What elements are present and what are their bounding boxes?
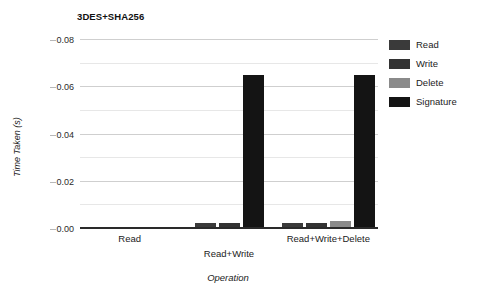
legend-item: Read <box>389 36 475 53</box>
gridline-minor <box>80 204 378 205</box>
x-axis-line <box>80 227 378 229</box>
legend-swatch-icon <box>389 40 410 50</box>
chart-legend: ReadWriteDeleteSignature <box>389 36 475 112</box>
y-axis-tick-label: 0.08 <box>56 35 74 45</box>
chart-title: 3DES+SHA256 <box>77 11 144 22</box>
x-axis-tick-label: Read+Write <box>204 248 254 259</box>
gridline-major <box>80 181 378 182</box>
x-axis-title: Operation <box>207 272 249 283</box>
gridline-minor <box>80 110 378 111</box>
legend-item: Write <box>389 55 475 72</box>
gridline-minor <box>80 63 378 64</box>
legend-item: Signature <box>389 93 475 110</box>
x-axis-tick-label: Read+Write+Delete <box>287 233 370 244</box>
y-axis-title-container: Time Taken (s) <box>6 92 28 202</box>
legend-item: Delete <box>389 74 475 91</box>
legend-swatch-icon <box>389 59 410 69</box>
gridline-minor <box>80 157 378 158</box>
legend-label: Delete <box>416 77 443 88</box>
bar-chart: 3DES+SHA256 Time Taken (s) 0.000.020.040… <box>0 0 477 294</box>
legend-label: Read <box>416 39 439 50</box>
y-axis-tick-label: 0.00 <box>56 224 74 234</box>
y-axis-title: Time Taken (s) <box>12 117 22 177</box>
bar-signature-read-write-delete <box>354 75 375 229</box>
bar-signature-read-write <box>243 75 264 229</box>
y-axis-tick-label: 0.04 <box>56 130 74 140</box>
x-axis-tick-label: Read <box>118 233 141 244</box>
gridline-major <box>80 86 378 87</box>
plot-area <box>80 40 378 229</box>
legend-label: Write <box>416 58 438 69</box>
gridline-major <box>80 39 378 40</box>
y-axis-tick-labels: 0.000.020.040.060.08 <box>40 40 74 229</box>
legend-swatch-icon <box>389 78 410 88</box>
y-axis-tick-label: 0.02 <box>56 177 74 187</box>
legend-swatch-icon <box>389 97 410 107</box>
gridline-major <box>80 134 378 135</box>
legend-label: Signature <box>416 96 457 107</box>
y-axis-tick-label: 0.06 <box>56 82 74 92</box>
